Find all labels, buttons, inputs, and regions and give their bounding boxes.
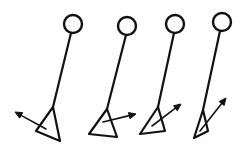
- head-circle: [118, 17, 136, 35]
- head-circle: [166, 15, 184, 33]
- leg-force-sequence-diagram: [0, 0, 243, 155]
- diagram-canvas: Leg push-off sequence with ground reacti…: [0, 0, 243, 155]
- head-circle: [213, 13, 231, 31]
- head-circle: [64, 15, 82, 33]
